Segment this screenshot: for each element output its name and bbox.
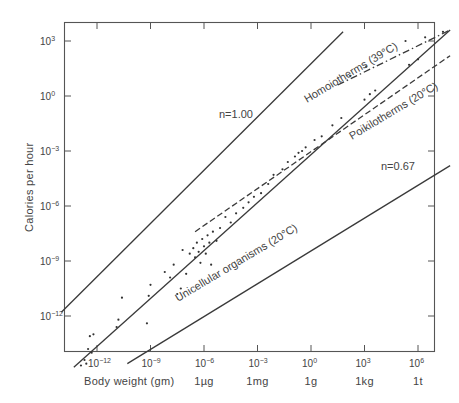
data-point [287,161,289,163]
regression-line [127,166,450,364]
x-unit-label: 1µg [194,375,213,387]
data-point [201,238,203,240]
regression-line [74,30,450,367]
data-point [80,364,82,366]
data-point [281,168,283,170]
data-point [189,253,191,255]
data-point [253,196,255,198]
data-point [203,245,205,247]
data-point [242,207,244,209]
y-tick-label: 100 [40,90,55,102]
data-point [442,31,444,33]
x-tick-label: 10−12 [88,357,111,369]
label-n-0-67: n=0.67 [381,160,415,172]
data-point [146,322,148,324]
x-tick-label: 106 [409,357,424,369]
data-point [116,326,118,328]
data-point [182,249,184,251]
data-point [321,135,323,137]
data-point [87,348,89,350]
data-point [164,271,166,273]
regression-lines [61,30,450,367]
data-point [363,99,365,101]
data-point [208,242,210,244]
data-point [121,297,123,299]
y-tick-label: 10−3 [40,145,59,157]
x-tick-label: 10−9 [142,357,161,369]
data-point [205,253,207,255]
data-point [219,227,221,229]
data-point [340,117,342,119]
x-tick-label: 10−3 [249,357,268,369]
y-axis-title: Calories per hour [23,142,35,232]
data-point [192,247,194,249]
data-point [297,152,299,154]
x-unit-label: 1g [305,375,318,387]
data-point [198,251,200,253]
data-point [305,146,307,148]
metabolic-rate-chart: 10−1210−910−61µg10−31mg1001g1031kg1061t … [0,0,459,403]
data-point [83,359,85,361]
regression-line [338,30,450,85]
x-unit-label: 1t [413,375,423,387]
data-point [173,264,175,266]
data-point [408,64,410,66]
data-point [313,139,315,141]
data-point [199,262,201,264]
data-point [169,276,171,278]
data-point [272,174,274,176]
data-point [148,295,150,297]
data-point [91,352,93,354]
y-tick-label: 10−6 [40,200,59,212]
data-point [215,240,217,242]
label-homoiotherms: Homoiotherms (39°C) [302,40,399,105]
y-tick-label: 10−12 [40,310,63,322]
data-point [369,93,371,95]
data-point [210,264,212,266]
data-point [85,363,87,365]
data-point [374,89,376,91]
regression-line [61,32,343,313]
x-tick-label: 103 [356,357,371,369]
data-point [212,231,214,233]
data-point [301,150,303,152]
label-n-1-00: n=1.00 [219,108,253,120]
data-point [196,242,198,244]
data-point [417,58,419,60]
data-point [117,319,119,321]
data-point [149,284,151,286]
data-point [92,333,94,335]
data-point [194,256,196,258]
data-point [185,273,187,275]
data-point [331,124,333,126]
data-point [424,36,426,38]
x-tick-label: 100 [302,357,317,369]
data-point [224,216,226,218]
x-axis-title: Body weight (gm) [84,375,174,387]
y-axis-ticks: 10310010−310−610−910−12 [40,35,435,322]
y-tick-label: 10−9 [40,255,59,267]
data-point [230,221,232,223]
x-unit-label: 1mg [246,375,268,387]
x-unit-label: 1kg [355,375,374,387]
data-point [294,155,296,157]
x-tick-label: 10−6 [195,357,214,369]
y-tick-label: 103 [40,35,55,47]
data-point [247,201,249,203]
data-point [235,212,237,214]
data-point [267,183,269,185]
plot-frame [65,23,435,352]
data-point [404,40,406,42]
label-unicellular: Unicellular organisms (20°C) [173,221,299,303]
data-point [206,234,208,236]
data-point [89,335,91,337]
data-point [260,192,262,194]
